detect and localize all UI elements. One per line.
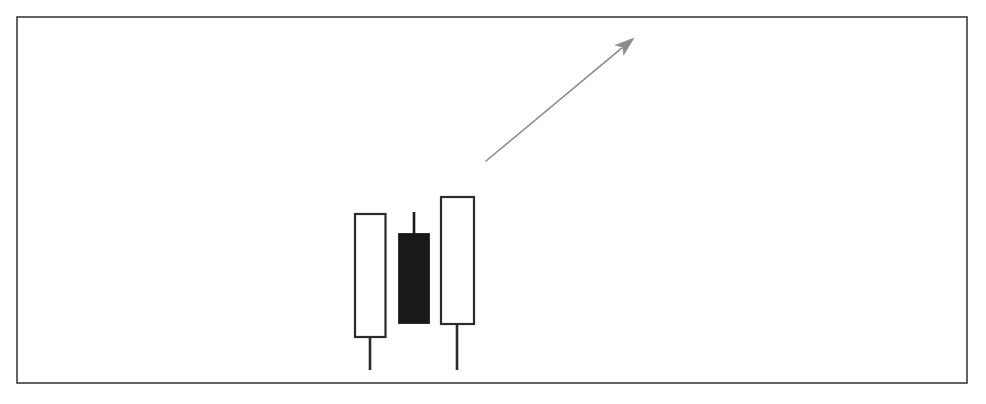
- candle-3-body-hollow: [441, 197, 474, 324]
- chart-background: [0, 0, 986, 404]
- candle-1-body-hollow: [355, 214, 386, 337]
- figure-root: [0, 0, 986, 404]
- candlestick-chart: [0, 0, 986, 404]
- candle-2-body-filled: [399, 234, 429, 323]
